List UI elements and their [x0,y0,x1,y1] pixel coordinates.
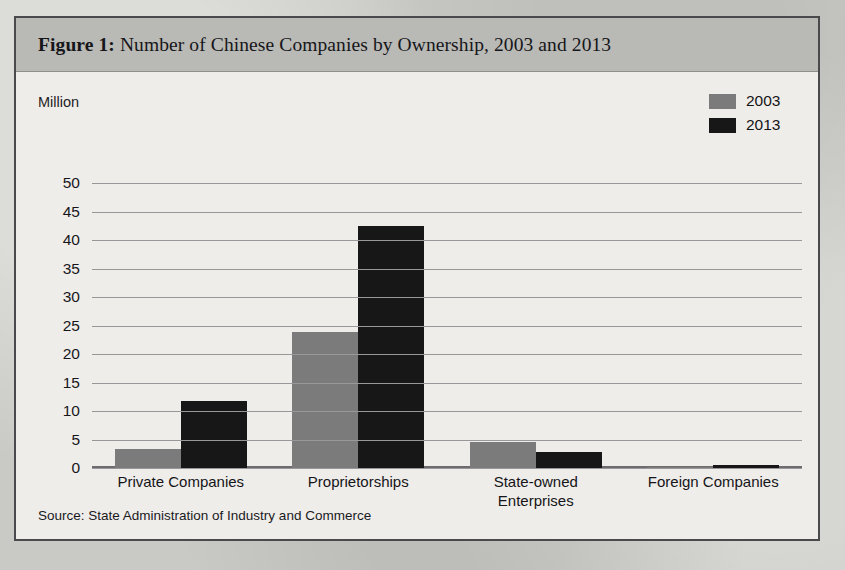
y-gridline: 15 [92,383,802,384]
bar-2003[interactable] [292,332,358,468]
chart-body: Million 20032013 50454035302520151050 Pr… [16,72,818,539]
figure-root: in the largest five state-owned banks.an… [0,0,845,570]
x-axis-category-line: Proprietorships [274,472,444,491]
y-gridline: 30 [92,297,802,298]
y-gridline: 45 [92,212,802,213]
x-axis-category-line: Enterprises [451,491,621,510]
y-gridline: 20 [92,354,802,355]
bar-2013[interactable] [536,452,602,468]
figure-container: Figure 1: Number of Chinese Companies by… [14,16,820,541]
y-axis-tick-label: 30 [63,288,80,306]
y-axis-tick-label: 20 [63,345,80,363]
x-axis-category-label: Foreign Companies [625,472,803,510]
y-axis-tick-label: 50 [63,174,80,192]
y-axis-tick-label: 25 [63,317,80,335]
source-note: Source: State Administration of Industry… [38,508,371,523]
y-gridline: 50 [92,183,802,184]
figure-title-bar: Figure 1: Number of Chinese Companies by… [16,18,818,72]
figure-number-label: Figure 1: [38,34,115,55]
figure-title-text: Number of Chinese Companies by Ownership… [115,34,611,55]
y-axis-tick-label: 15 [63,374,80,392]
y-axis-tick-label: 0 [71,459,80,477]
y-gridline: 35 [92,269,802,270]
y-axis-tick-label: 40 [63,231,80,249]
bar-2003[interactable] [470,442,536,468]
y-axis-tick-label: 45 [63,203,80,221]
plot-wrapper: 50454035302520151050 Private CompaniesPr… [16,72,818,539]
bar-2013[interactable] [358,226,424,468]
plot-area: 50454035302520151050 [92,183,802,468]
y-gridline: 0 [92,468,802,469]
x-axis-category-line: State-owned [451,472,621,491]
y-axis-tick-label: 10 [63,402,80,420]
x-axis-category-label: Proprietorships [270,472,448,510]
x-axis-category-line: Foreign Companies [629,472,799,491]
y-gridline: 25 [92,326,802,327]
y-axis-tick-label: 5 [71,431,80,449]
figure-title: Figure 1: Number of Chinese Companies by… [38,34,611,56]
bar-2003[interactable] [115,449,181,468]
y-gridline: 40 [92,240,802,241]
y-gridline: 5 [92,440,802,441]
y-axis-tick-label: 35 [63,260,80,278]
x-axis-category-line: Private Companies [96,472,266,491]
x-axis-labels: Private CompaniesProprietorshipsState-ow… [92,472,802,510]
x-axis-category-label: Private Companies [92,472,270,510]
y-gridline: 10 [92,411,802,412]
x-axis-category-label: State-ownedEnterprises [447,472,625,510]
